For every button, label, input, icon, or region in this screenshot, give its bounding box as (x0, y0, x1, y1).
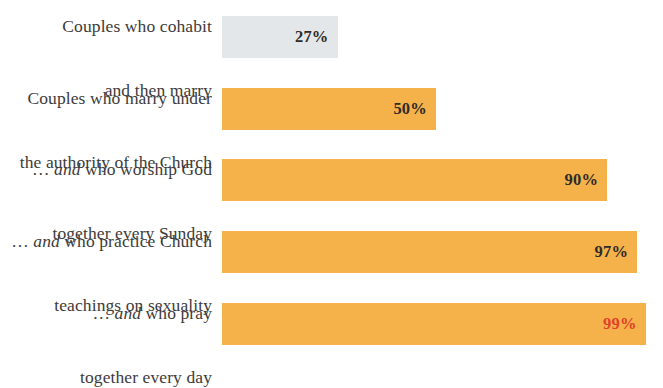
bar-row-label-line1: Couples who cohabit (62, 16, 212, 36)
bar-fill: 90% (222, 159, 607, 201)
bar-value-label: 97% (595, 242, 638, 262)
bar-row-label-line1: Couples who marry under (27, 88, 212, 108)
bar-row: … and who pray together every day 99% (0, 303, 663, 345)
label-text-pre: Couples who cohabit (62, 16, 212, 36)
bar-row-label: … and who pray together every day (0, 260, 222, 388)
label-text-post: who pray (141, 303, 212, 323)
bar-track: 99% (222, 303, 663, 345)
label-text-emphasis: and (115, 303, 142, 323)
bar-fill: 99% (222, 303, 646, 345)
label-text-pre: … (11, 231, 33, 251)
bar-track: 50% (222, 88, 663, 130)
bar-row-label-line1: … and who pray (92, 303, 212, 323)
bar-track: 90% (222, 159, 663, 201)
bar-row-label-line1: … and who practice Church (11, 231, 212, 251)
label-text-emphasis: and (33, 231, 60, 251)
label-text-pre: … (92, 303, 114, 323)
label-text-post: who practice Church (60, 231, 212, 251)
label-text-emphasis: and (54, 159, 81, 179)
bar-row-label-line1: … and who worship God (32, 159, 212, 179)
bar-fill: 27% (222, 16, 338, 58)
label-text-post: who worship God (81, 159, 212, 179)
bar-track: 97% (222, 231, 663, 273)
bar-fill: 97% (222, 231, 637, 273)
bar-row-label-line2: together every day (80, 367, 212, 387)
bar-value-label: 27% (295, 27, 338, 47)
bar-value-label: 90% (565, 170, 608, 190)
bar-track: 27% (222, 16, 663, 58)
label-text-pre: … (32, 159, 54, 179)
bar-value-label: 99% (603, 314, 646, 334)
bar-fill: 50% (222, 88, 436, 130)
bar-value-label: 50% (393, 99, 436, 119)
label-text-pre: Couples who marry under (27, 88, 212, 108)
